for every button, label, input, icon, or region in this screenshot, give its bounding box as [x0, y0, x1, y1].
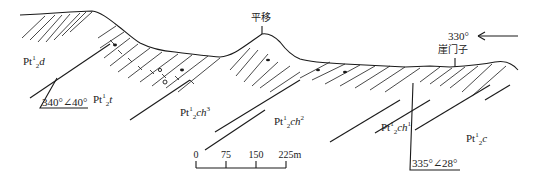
unit-label-pt2-1-ch3: Pt12ch3 — [180, 107, 210, 118]
unit-label-pt2-1-c: Pt12c — [466, 133, 487, 144]
section-drawing — [0, 0, 542, 185]
attitude-label-left: 340°∠40° — [42, 97, 88, 108]
strata-contact-4 — [485, 85, 510, 100]
place-name-yamenzi: 崖门子 — [438, 45, 468, 55]
place-name-pingyi: 平移 — [251, 13, 271, 23]
unit-label-pt2-1-d: Pt12d — [23, 56, 45, 67]
fault-line-right — [415, 85, 490, 130]
attitude-label-right: 335°∠28° — [412, 158, 458, 169]
unit-label-pt2-1-ch1: Pt12ch1 — [381, 122, 411, 133]
scale-tick-75: 75 — [221, 149, 231, 160]
direction-label: 330° — [448, 31, 469, 42]
scale-tick-0: 0 — [194, 149, 199, 160]
lens-markers — [113, 44, 347, 74]
scale-tick-225m: 225m — [279, 149, 302, 160]
circle-markers — [158, 68, 167, 84]
unit-label-pt2-1-ch2: Pt12ch2 — [274, 116, 304, 127]
scale-bar-ticks — [196, 161, 286, 168]
fault-line-3 — [205, 110, 265, 150]
unit-label-pt2-1-t: Pt12t — [93, 94, 112, 105]
cross-section-diagram: 330° 平移 崖门子 Pt12d Pt12t Pt12ch3 Pt12ch2 … — [0, 0, 542, 185]
fault-line-left — [30, 44, 110, 98]
scale-tick-150: 150 — [249, 149, 264, 160]
